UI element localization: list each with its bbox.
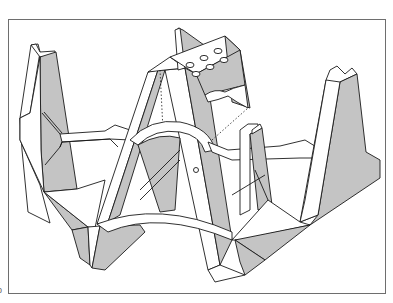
- figure-corner-label: b: [0, 285, 2, 295]
- structure-diagram: [0, 0, 393, 303]
- cap-hole-1: [186, 62, 194, 67]
- cap-hole-6: [220, 57, 228, 62]
- cap-hole-4: [192, 71, 200, 76]
- cap-hole-5: [206, 64, 214, 69]
- cap-hole-3: [214, 48, 222, 53]
- cap-hole-2: [200, 55, 208, 60]
